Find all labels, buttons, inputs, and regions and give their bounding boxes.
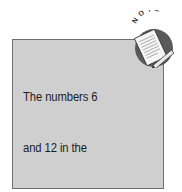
note-text: The numbers 6 and 12 in the example belo…: [23, 54, 158, 192]
svg-text:NOTE: NOTE: [131, 10, 163, 24]
note-paper-pencil-icon: NOTE: [125, 10, 182, 68]
note-line: and 12 in the: [23, 140, 158, 157]
note-line: The numbers 6: [23, 89, 158, 106]
